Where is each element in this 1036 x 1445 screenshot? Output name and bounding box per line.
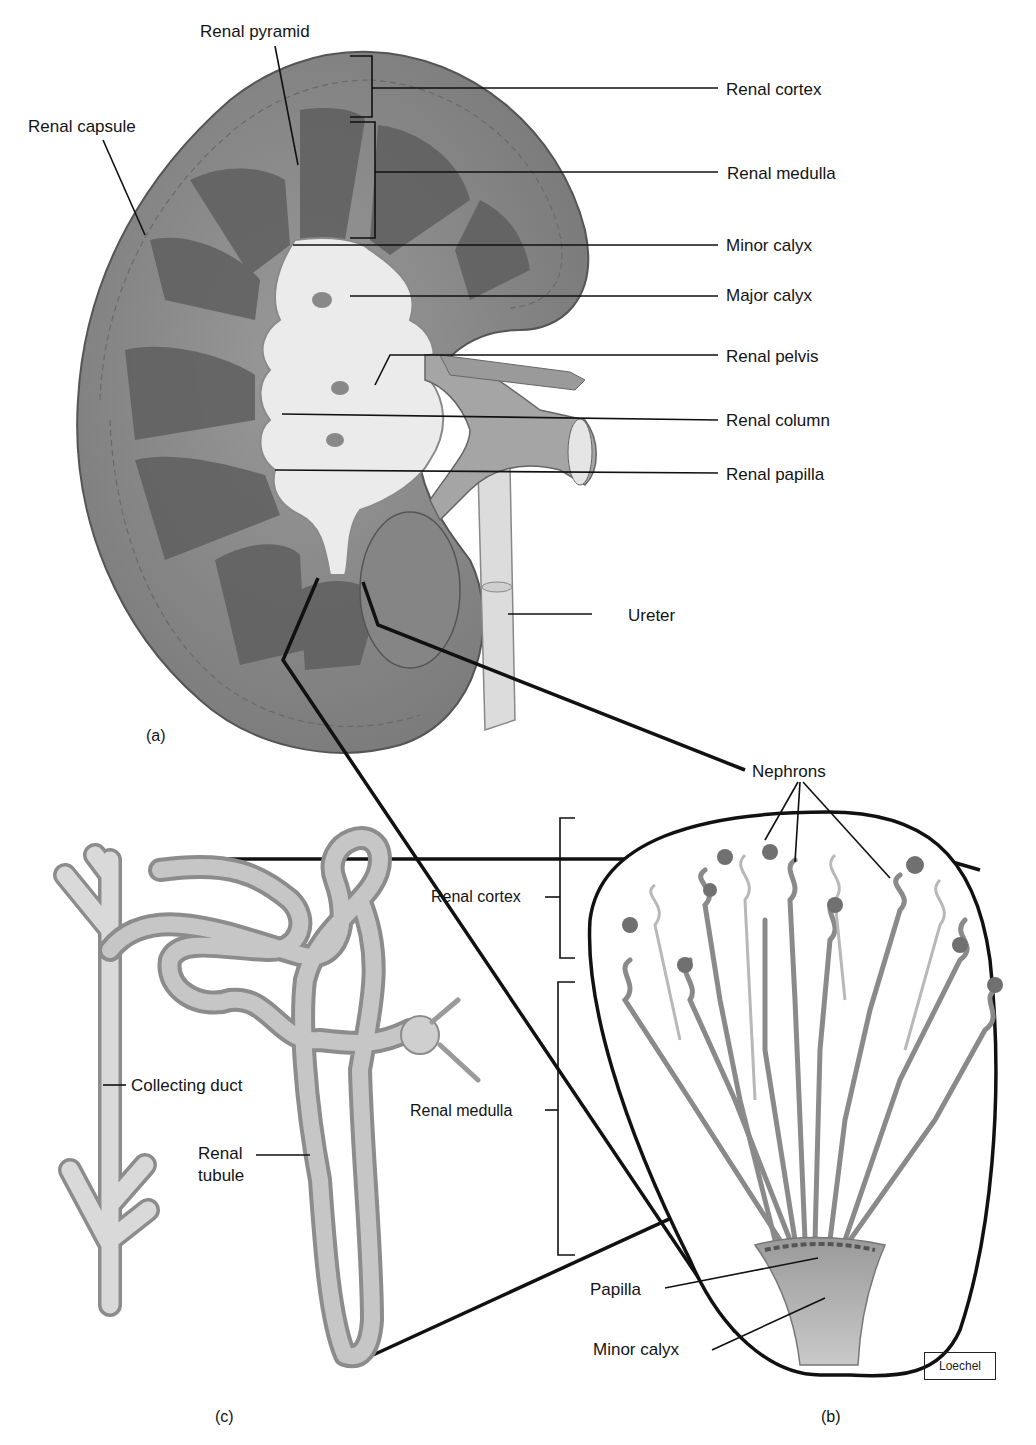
label-nephrons: Nephrons xyxy=(752,762,826,782)
ureter-shape xyxy=(478,465,515,730)
label-renal-tubule-line2: tubule xyxy=(198,1166,244,1186)
label-b-renal-medulla: Renal medulla xyxy=(410,1101,512,1121)
label-renal-pelvis: Renal pelvis xyxy=(726,347,819,367)
label-major-calyx: Major calyx xyxy=(726,286,812,306)
renal-tubule-shape xyxy=(110,838,410,1356)
label-renal-capsule: Renal capsule xyxy=(28,117,136,137)
label-renal-pyramid: Renal pyramid xyxy=(200,22,310,42)
label-renal-cortex: Renal cortex xyxy=(726,80,821,100)
kidney-anatomy-illustration xyxy=(0,0,1036,1445)
panel-label-c: (c) xyxy=(215,1408,234,1426)
label-papilla: Papilla xyxy=(590,1280,641,1300)
kidney-section xyxy=(77,52,596,753)
panel-label-a: (a) xyxy=(146,727,166,745)
label-b-renal-cortex: Renal cortex xyxy=(431,887,521,907)
illustrator-credit: Loechel xyxy=(924,1352,996,1380)
pyramid-enlargement xyxy=(590,812,1003,1376)
label-minor-calyx: Minor calyx xyxy=(726,236,812,256)
label-renal-tubule-line1: Renal xyxy=(198,1144,242,1164)
label-collecting-duct: Collecting duct xyxy=(131,1076,243,1096)
nephron-and-collecting-duct xyxy=(65,838,478,1356)
panel-label-b: (b) xyxy=(821,1408,841,1426)
label-renal-medulla: Renal medulla xyxy=(727,164,836,184)
label-b-minor-calyx: Minor calyx xyxy=(593,1340,679,1360)
label-renal-papilla: Renal papilla xyxy=(726,465,824,485)
label-renal-column: Renal column xyxy=(726,411,830,431)
label-ureter: Ureter xyxy=(628,606,675,626)
